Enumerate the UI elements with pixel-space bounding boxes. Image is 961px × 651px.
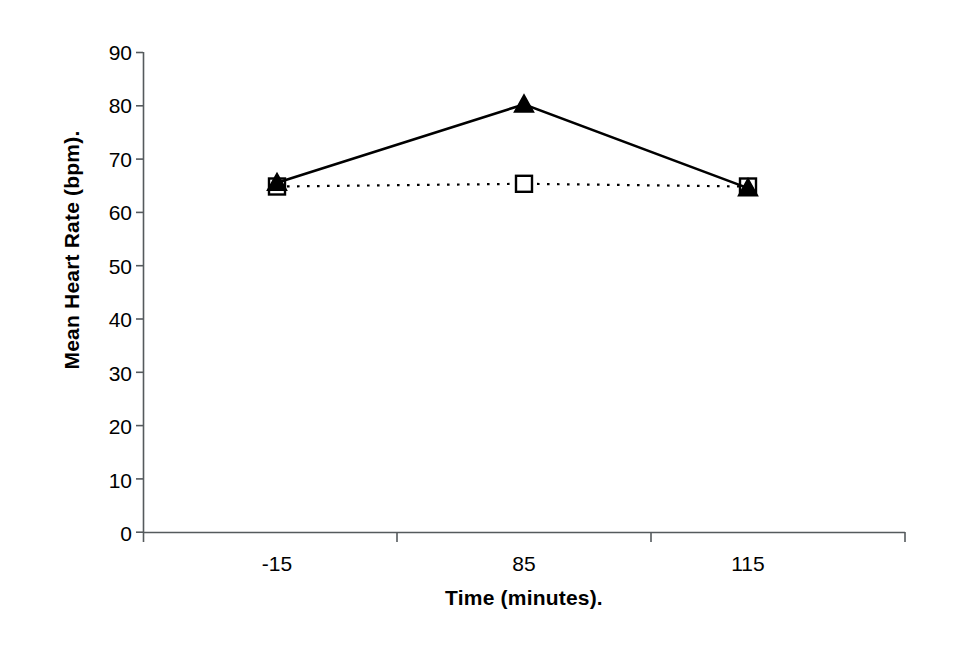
plot-area — [0, 0, 961, 651]
x-axis-ticks — [144, 532, 906, 542]
series-dotted-square — [269, 176, 756, 195]
series-solid-triangle — [268, 95, 758, 196]
series-solid-triangle-line — [277, 104, 748, 188]
y-axis-ticks — [136, 53, 143, 533]
series-dotted-square-line — [277, 184, 748, 187]
marker-open-square-2 — [516, 176, 532, 192]
chart-figure: Mean Heart Rate (bpm). 90 80 70 60 50 40… — [0, 0, 961, 651]
marker-filled-triangle-2 — [515, 95, 534, 112]
